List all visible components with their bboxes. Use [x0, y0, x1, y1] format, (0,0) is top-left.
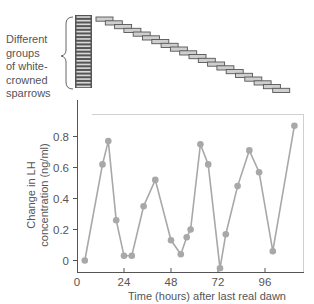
staggered-group-bars: [96, 17, 290, 93]
stack-frame: [75, 15, 92, 88]
group-bar: [77, 71, 91, 73]
x-tick-label: 96: [259, 276, 272, 288]
group-bar: [77, 42, 91, 44]
y-tick-label: 0: [63, 255, 69, 267]
data-point: [223, 231, 230, 238]
group-bar: [77, 20, 91, 22]
x-tick-label: 0: [74, 276, 80, 288]
group-bar: [77, 16, 91, 18]
group-label-line: groups: [6, 47, 51, 61]
data-point: [256, 169, 263, 176]
group-bar: [77, 60, 91, 62]
group-label-line: Different: [6, 33, 51, 47]
data-point: [197, 141, 204, 148]
series-line: [85, 126, 295, 269]
x-tick-label: 24: [118, 276, 131, 288]
data-point: [105, 138, 112, 145]
group-label-line: sparrows: [6, 87, 51, 101]
data-point: [246, 147, 253, 154]
data-point: [270, 248, 277, 255]
y-axis-label-line: Change in LH: [25, 143, 38, 246]
data-point: [178, 251, 185, 258]
data-point: [205, 161, 212, 168]
data-point: [113, 217, 120, 224]
y-ticks: 00.20.40.60.8: [53, 131, 78, 267]
data-point: [140, 203, 147, 210]
data-point: [234, 183, 241, 190]
group-bar: [77, 34, 91, 36]
group-bar: [77, 38, 91, 40]
data-point: [129, 253, 136, 260]
group-bar: [77, 49, 91, 51]
x-axis-label: Time (hours) after last real dawn: [100, 290, 314, 302]
lh-series: [82, 122, 298, 271]
data-point: [82, 257, 89, 264]
y-tick-label: 0.6: [53, 162, 69, 174]
group-brace: [61, 17, 73, 89]
data-point: [217, 265, 224, 272]
group-bar: [77, 56, 91, 58]
data-point: [168, 237, 175, 244]
group-bar: [77, 24, 91, 26]
y-tick-label: 0.8: [53, 131, 69, 143]
data-point: [183, 234, 190, 241]
group-bar: [77, 75, 91, 77]
group-bar: [77, 27, 91, 29]
group-bar: [77, 31, 91, 33]
group-bar: [77, 86, 91, 88]
y-tick-label: 0.4: [53, 193, 70, 205]
x-ticks: 024487296: [74, 268, 272, 288]
group-bar: [273, 88, 290, 92]
group-label-line: of white-: [6, 60, 51, 74]
group-label: Different groups of white- crowned sparr…: [6, 33, 51, 101]
y-tick-label: 0.2: [53, 224, 69, 236]
data-point: [121, 253, 128, 260]
data-point: [152, 177, 159, 184]
x-tick-label: 48: [165, 276, 178, 288]
group-bar: [77, 53, 91, 55]
data-point: [187, 226, 194, 233]
x-tick-label: 72: [212, 276, 225, 288]
y-axis-label-line: concentration (ng/ml): [38, 143, 51, 246]
group-bar: [77, 45, 91, 47]
data-point: [291, 122, 298, 129]
stacked-group-bars: [75, 15, 92, 88]
group-bar: [77, 67, 91, 69]
group-label-line: crowned: [6, 74, 51, 88]
group-bar: [77, 82, 91, 84]
group-bar: [77, 64, 91, 66]
group-bar: [77, 78, 91, 80]
data-point: [99, 161, 106, 168]
